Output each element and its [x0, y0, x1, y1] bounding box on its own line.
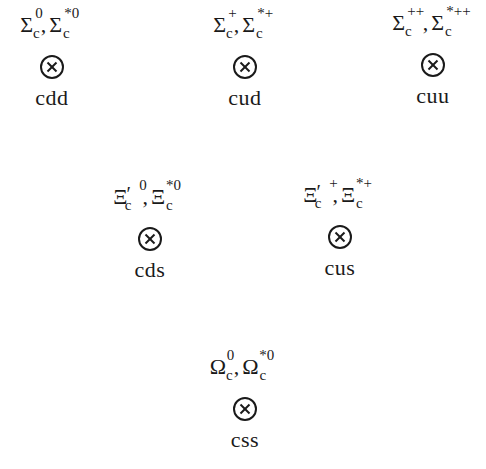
node-cds: Ξ′c0,Ξc*0 cds: [60, 186, 240, 283]
particle-1: Ξ′c0: [113, 186, 131, 208]
quark-content: cuu: [343, 83, 486, 109]
particle-1: Σc0: [20, 14, 39, 36]
node-cuu: Σc++,Σc*++ cuu: [343, 12, 486, 109]
quark-content: css: [155, 427, 335, 453]
circled-times-icon: [39, 54, 65, 80]
node-cus: Ξ′c+,Ξc*+ cus: [250, 184, 430, 281]
circled-times-icon: [232, 396, 258, 422]
quark-content: cds: [60, 257, 240, 283]
particle-2: Σc*0: [49, 14, 69, 36]
particle-label: Ξ′c+,Ξc*+: [250, 184, 430, 220]
node-cdd: Σc0,Σc*0 cdd: [0, 14, 142, 111]
quark-content: cdd: [0, 85, 142, 111]
particle-2: Σc*++: [431, 12, 451, 34]
particle-2: Ωc*0: [242, 356, 266, 378]
circled-times-icon: [420, 52, 446, 78]
particle-label: Σc++,Σc*++: [343, 12, 486, 48]
particle-1: Σc++: [392, 12, 411, 34]
particle-label: Ωc0,Ωc*0: [155, 356, 335, 392]
particle-2: Ξc*+: [341, 184, 363, 206]
node-cud: Σc+,Σc*+ cud: [155, 14, 335, 111]
particle-label: Σc0,Σc*0: [0, 14, 142, 50]
particle-label: Σc+,Σc*+: [155, 14, 335, 50]
particle-2: Σc*+: [242, 14, 262, 36]
circled-times-icon: [327, 224, 353, 250]
particle-label: Ξ′c0,Ξc*0: [60, 186, 240, 222]
particle-1: Ξ′c+: [303, 184, 321, 206]
circled-times-icon: [137, 226, 163, 252]
quark-content: cus: [250, 255, 430, 281]
particle-1: Ωc0: [210, 356, 233, 378]
particle-2: Ξc*0: [151, 186, 173, 208]
quark-content: cud: [155, 85, 335, 111]
particle-1: Σc+: [213, 14, 232, 36]
circled-times-icon: [232, 54, 258, 80]
node-css: Ωc0,Ωc*0 css: [155, 356, 335, 453]
